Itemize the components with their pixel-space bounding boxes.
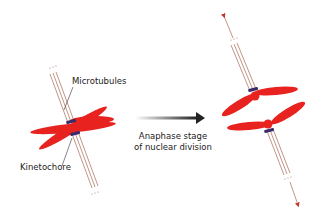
transition-caption: Anaphase stage of nuclear division	[128, 131, 218, 153]
caption-line-1: Anaphase stage	[128, 131, 218, 142]
label-kinetochore: Kinetochore	[20, 162, 71, 172]
left-chromosome	[30, 103, 116, 153]
transition-arrow	[135, 112, 205, 124]
caption-line-2: of nuclear division	[128, 142, 218, 153]
label-microtubules: Microtubules	[72, 76, 126, 86]
right-microtubules-top	[224, 16, 256, 91]
diagram-canvas	[0, 0, 319, 216]
right-microtubules-bottom	[267, 129, 298, 205]
